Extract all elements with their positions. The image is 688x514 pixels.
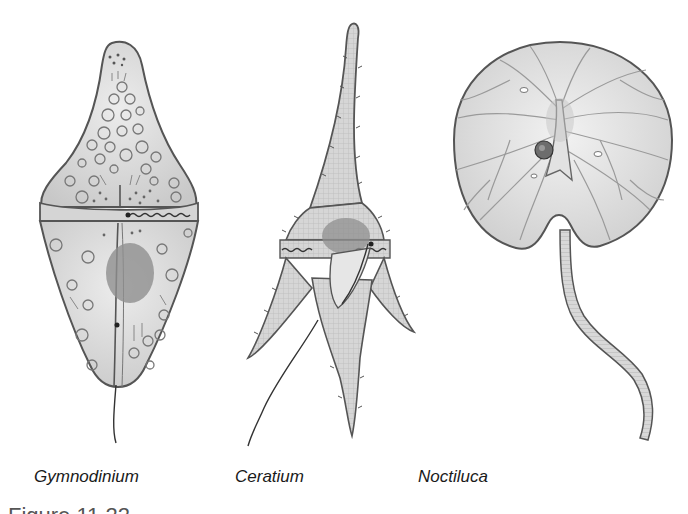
noctiluca-label: Noctiluca: [418, 467, 488, 487]
noctiluca-illustration: [450, 40, 680, 450]
dinoflagellate-figure: Gymnodinium Ceratium Noctiluca Figure 11…: [0, 0, 688, 514]
gymnodinium-illustration: [30, 35, 210, 445]
noctiluca-drawing: [450, 40, 680, 450]
figure-caption-partial: Figure 11.22: [8, 503, 130, 514]
ceratium-illustration: [238, 18, 428, 448]
gymnodinium-drawing: [30, 35, 210, 445]
gymnodinium-label: Gymnodinium: [34, 467, 139, 487]
ceratium-label: Ceratium: [235, 467, 304, 487]
ceratium-drawing: [238, 18, 428, 448]
